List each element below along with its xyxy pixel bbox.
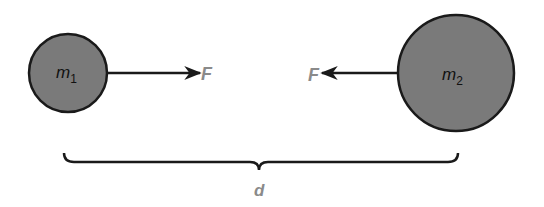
force-label-2: F [308,65,320,85]
distance-brace: d [64,153,458,200]
force-arrow-m1: F [107,64,213,84]
gravitation-diagram: m1 F m2 F d [0,0,544,207]
brace-icon [64,153,458,170]
distance-label: d [254,181,265,200]
force-arrow-m2: F [308,65,398,85]
mass-m2: m2 [398,15,514,131]
force-label-1: F [201,64,213,84]
mass-m1: m1 [29,34,107,112]
